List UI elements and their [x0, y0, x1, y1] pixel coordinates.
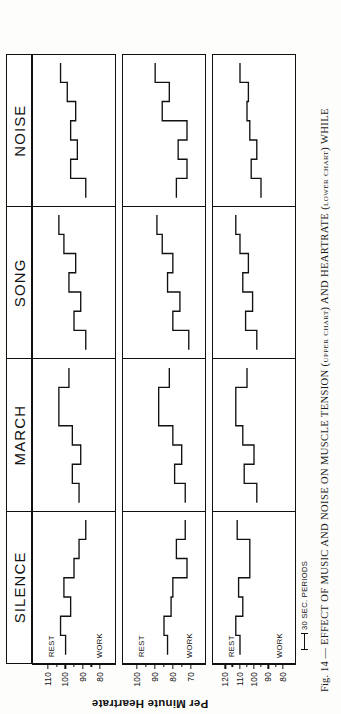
- y-tick-mark: [225, 664, 226, 669]
- panel-moderate-mixture-muscular-march[interactable]: [122, 360, 206, 512]
- y-tick-mark: [191, 664, 192, 669]
- heartrate-step-trace: [59, 368, 81, 503]
- trace-svg: [33, 55, 115, 206]
- rotated-page-wrapper: Per Minute Heartrate SILENCEMARCHSONGNOI…: [0, 0, 341, 714]
- y-tick-label: 90: [150, 672, 160, 694]
- panel-moderate-mixture-muscular-noise[interactable]: MODERATEMIXTURE-MUSCULAR: [122, 54, 206, 207]
- y-tick-mark: [239, 664, 240, 669]
- y-tick-mark: [154, 664, 155, 669]
- work-annotation: WORK: [185, 633, 194, 658]
- chart-row-muscular-fat: 1101009080RESTWORKMUSCULAR-FAT: [32, 54, 116, 664]
- y-minor-tick-mark: [275, 664, 276, 667]
- y-tick-label: 110: [235, 672, 245, 694]
- y-tick-mark: [253, 664, 254, 669]
- condition-header-song: SONG: [6, 207, 32, 359]
- heartrate-step-trace: [61, 63, 86, 198]
- y-minor-tick-mark: [261, 664, 262, 667]
- heartrate-step-trace: [236, 368, 257, 503]
- y-tick-label: 100: [60, 672, 70, 694]
- work-annotation: WORK: [95, 633, 104, 658]
- heartrate-step-trace: [164, 520, 187, 655]
- chart-row-thin: 1201101009080RESTWORKTHIN: [212, 54, 296, 664]
- panel-moderate-mixture-muscular-silence[interactable]: RESTWORK: [122, 512, 206, 664]
- scale-bar-30-sec-periods: 30 SEC. PERIODS: [300, 561, 309, 650]
- trace-svg: [213, 55, 295, 206]
- panel-thin-silence[interactable]: RESTWORK: [212, 512, 296, 664]
- work-annotation: WORK: [275, 633, 284, 658]
- y-axis-0: 1101009080: [32, 664, 116, 712]
- figure-canvas: Per Minute Heartrate SILENCEMARCHSONGNOI…: [0, 0, 341, 714]
- scale-bar-label: 30 SEC. PERIODS: [300, 561, 309, 630]
- heartrate-step-trace: [61, 520, 86, 655]
- y-tick-label: 100: [249, 672, 259, 694]
- trace-svg: [123, 207, 205, 358]
- y-tick-mark: [82, 664, 83, 669]
- y-minor-tick-mark: [145, 664, 146, 667]
- y-tick-mark: [172, 664, 173, 669]
- trace-svg: [123, 55, 205, 206]
- heartrate-step-trace: [236, 520, 250, 655]
- condition-header-row: SILENCEMARCHSONGNOISE: [6, 54, 32, 664]
- heartrate-step-trace: [159, 368, 186, 503]
- panel-thin-song[interactable]: [212, 207, 296, 359]
- y-tick-label: 90: [263, 672, 273, 694]
- condition-header-march: MARCH: [6, 360, 32, 512]
- y-minor-tick-mark: [246, 664, 247, 667]
- caption-dash: —: [319, 648, 330, 659]
- rest-annotation: REST: [137, 635, 146, 657]
- y-tick-label: 80: [168, 672, 178, 694]
- heartrate-step-trace: [157, 216, 189, 351]
- trace-svg: [33, 207, 115, 358]
- rest-annotation: REST: [47, 635, 56, 657]
- heartrate-step-trace: [236, 216, 257, 351]
- caption-text: EFFECT OF MUSIC AND NOISE ON MUSCLE TENS…: [319, 108, 330, 645]
- y-tick-mark: [282, 664, 283, 669]
- y-minor-tick-mark: [232, 664, 233, 667]
- y-tick-label: 120: [220, 672, 230, 694]
- heartrate-step-trace: [155, 63, 187, 198]
- trace-svg: [123, 360, 205, 511]
- y-tick-mark: [48, 664, 49, 669]
- y-minor-tick-mark: [181, 664, 182, 667]
- chart-grid: SILENCEMARCHSONGNOISE 1101009080RESTWORK…: [6, 54, 298, 664]
- y-tick-label: 70: [186, 672, 196, 694]
- rest-annotation: REST: [227, 635, 236, 657]
- y-minor-tick-mark: [91, 664, 92, 667]
- figure-inner: Per Minute Heartrate SILENCEMARCHSONGNOI…: [0, 0, 341, 714]
- y-tick-mark: [65, 664, 66, 669]
- heartrate-step-trace: [59, 216, 86, 351]
- y-minor-tick-mark: [73, 664, 74, 667]
- y-axis-2: 1201101009080: [212, 664, 296, 712]
- y-tick-mark: [268, 664, 269, 669]
- y-tick-label: 110: [43, 672, 53, 694]
- heartrate-step-trace: [240, 63, 261, 198]
- panel-muscular-fat-silence[interactable]: RESTWORK: [32, 512, 116, 664]
- y-axis-1: 100908070: [122, 664, 206, 712]
- chart-row-moderate-mixture-muscular: 100908070RESTWORKMODERATEMIXTURE-MUSCULA…: [122, 54, 206, 664]
- y-tick-label: 80: [278, 672, 288, 694]
- y-tick-mark: [99, 664, 100, 669]
- panel-muscular-fat-march[interactable]: [32, 360, 116, 512]
- y-minor-tick-mark: [56, 664, 57, 667]
- panel-thin-noise[interactable]: THIN: [212, 54, 296, 207]
- trace-svg: [213, 360, 295, 511]
- figure-number: Fig. 14: [319, 661, 330, 692]
- y-tick-label: 80: [95, 672, 105, 694]
- y-tick-mark: [136, 664, 137, 669]
- panel-moderate-mixture-muscular-song[interactable]: [122, 207, 206, 359]
- y-tick-label: 90: [78, 672, 88, 694]
- figure-caption: Fig. 14 — EFFECT OF MUSIC AND NOISE ON M…: [319, 16, 339, 692]
- condition-header-noise: NOISE: [6, 54, 32, 207]
- condition-header-silence: SILENCE: [6, 512, 32, 664]
- trace-svg: [33, 360, 115, 511]
- scale-bar-glyph: [301, 633, 308, 650]
- y-tick-label: 100: [132, 672, 142, 694]
- panel-thin-march[interactable]: [212, 360, 296, 512]
- panel-muscular-fat-song[interactable]: [32, 207, 116, 359]
- panel-muscular-fat-noise[interactable]: MUSCULAR-FAT: [32, 54, 116, 207]
- trace-svg: [213, 207, 295, 358]
- y-minor-tick-mark: [163, 664, 164, 667]
